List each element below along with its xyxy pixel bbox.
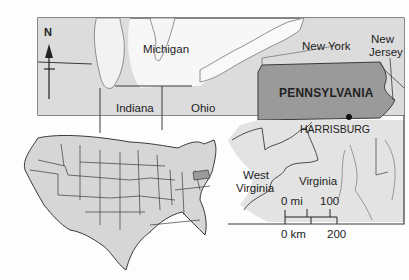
inset-pennsylvania[interactable] xyxy=(193,170,210,180)
label-michigan: Michigan xyxy=(143,44,189,56)
harrisburg-dot xyxy=(346,114,352,120)
label-new-york: New York xyxy=(302,41,351,53)
label-pennsylvania: PENNSYLVANIA xyxy=(279,87,374,99)
label-west-virginia-1: West xyxy=(243,170,269,182)
scale-km-zero: 0 km xyxy=(281,229,306,241)
label-west-virginia-2: Virginia xyxy=(236,183,274,195)
label-new-jersey-2: Jersey xyxy=(369,47,403,59)
scale-mi-zero: 0 mi xyxy=(281,196,303,208)
label-ohio: Ohio xyxy=(191,103,215,115)
scale-km-max: 200 xyxy=(327,229,346,241)
label-indiana: Indiana xyxy=(116,103,154,115)
compass-label: N xyxy=(44,27,52,38)
label-virginia: Virginia xyxy=(299,176,337,188)
us-inset-map xyxy=(24,135,216,270)
label-harrisburg: HARRISBURG xyxy=(300,124,370,135)
label-new-jersey-1: New xyxy=(371,34,394,46)
scale-mi-max: 100 xyxy=(320,196,339,208)
